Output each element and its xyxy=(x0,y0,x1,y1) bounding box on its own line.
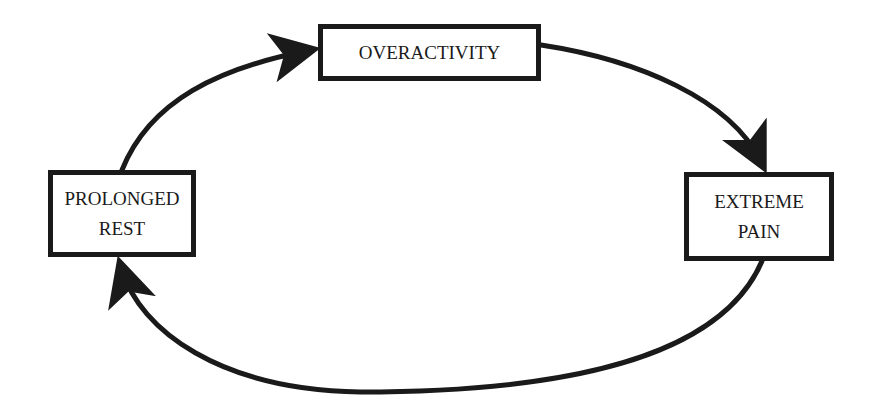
node-overactivity: OVERACTIVITY xyxy=(318,24,541,81)
node-extreme-pain: EXTREME PAIN xyxy=(684,172,834,261)
node-prolonged-rest-label-line2: REST xyxy=(99,214,145,243)
node-extreme-pain-label-line1: EXTREME xyxy=(714,187,804,216)
arrow-rest-to-overactivity xyxy=(122,51,306,170)
arrow-overactivity-to-pain xyxy=(541,45,760,160)
diagram-canvas: OVERACTIVITY EXTREME PAIN PROLONGED REST xyxy=(0,0,872,417)
node-prolonged-rest-label-line1: PROLONGED xyxy=(64,184,179,213)
node-prolonged-rest: PROLONGED REST xyxy=(48,170,196,257)
node-extreme-pain-label-line2: PAIN xyxy=(738,217,781,246)
node-overactivity-label: OVERACTIVITY xyxy=(359,38,500,67)
arrow-pain-to-rest xyxy=(122,261,762,392)
